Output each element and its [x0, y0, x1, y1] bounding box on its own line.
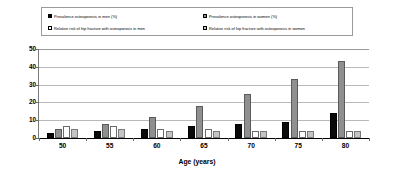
- bar: [47, 133, 54, 138]
- x-tick-label: 80: [342, 142, 349, 149]
- x-tick-mark: [133, 138, 134, 141]
- y-tick-label: 40: [29, 64, 36, 70]
- bar: [291, 79, 298, 138]
- bar: [354, 131, 361, 138]
- y-tick-label: 10: [29, 117, 36, 123]
- bar: [63, 126, 70, 138]
- bar: [213, 131, 220, 138]
- bar: [94, 131, 101, 138]
- legend-row-top: Prevalence osteoporosis in men (%) Preva…: [42, 10, 352, 22]
- x-tick-label: 50: [59, 142, 66, 149]
- x-tick-mark: [322, 138, 323, 141]
- x-tick-label: 75: [295, 142, 302, 149]
- x-axis-title: Age (years): [0, 158, 394, 166]
- y-tick-label: 20: [29, 99, 36, 105]
- y-tick-label: 50: [29, 46, 36, 52]
- legend-label-prevalence-men: Prevalence osteoporosis in men (%): [54, 14, 117, 19]
- x-tick-label: 55: [106, 142, 113, 149]
- x-tick-mark: [369, 138, 370, 141]
- x-tick-mark: [86, 138, 87, 141]
- bar: [330, 113, 337, 138]
- bar: [244, 94, 251, 139]
- bar: [188, 126, 195, 138]
- x-tick-label: 65: [200, 142, 207, 149]
- x-tick-label: 70: [247, 142, 254, 149]
- x-tick-mark: [39, 138, 40, 141]
- bar-group: [86, 49, 133, 138]
- bar-group: [322, 49, 369, 138]
- y-tick-label: 0: [32, 135, 36, 141]
- bar: [102, 124, 109, 138]
- bar: [166, 131, 173, 138]
- legend-item-relative-risk-women: Relative risk of hip fracture with osteo…: [201, 22, 352, 34]
- legend-swatch-relative-risk-women-icon: [203, 26, 207, 30]
- bar: [71, 129, 78, 138]
- y-tick-label: 30: [29, 81, 36, 87]
- bar: [299, 131, 306, 138]
- bar: [196, 106, 203, 138]
- bar: [346, 131, 353, 138]
- chart-legend: Prevalence osteoporosis in men (%) Preva…: [41, 7, 353, 36]
- bar: [149, 117, 156, 138]
- legend-row-bottom: Relative risk of hip fracture with osteo…: [42, 22, 352, 34]
- bar: [252, 131, 259, 138]
- bar: [110, 126, 117, 138]
- legend-swatch-relative-risk-men-icon: [48, 26, 52, 30]
- plot-area: 01020304050 50556065707580: [38, 49, 369, 139]
- legend-item-prevalence-women: Prevalence osteoporosis in women (%): [201, 10, 352, 22]
- bar: [260, 131, 267, 138]
- bar-group: [228, 49, 275, 138]
- x-tick-label: 60: [153, 142, 160, 149]
- bar-groups: [39, 49, 369, 138]
- x-tick-mark: [275, 138, 276, 141]
- bar: [282, 122, 289, 138]
- bar: [157, 129, 164, 138]
- legend-item-prevalence-men: Prevalence osteoporosis in men (%): [42, 10, 201, 22]
- legend-label-relative-risk-women: Relative risk of hip fracture with osteo…: [209, 26, 305, 31]
- legend-swatch-prevalence-women-icon: [203, 14, 207, 18]
- bar-group: [133, 49, 180, 138]
- legend-swatch-prevalence-men-icon: [48, 14, 52, 18]
- bar: [307, 131, 314, 138]
- bar: [55, 129, 62, 138]
- bar-group: [39, 49, 86, 138]
- bar-group: [275, 49, 322, 138]
- legend-label-relative-risk-men: Relative risk of hip fracture with osteo…: [54, 26, 145, 31]
- legend-item-relative-risk-men: Relative risk of hip fracture with osteo…: [42, 22, 201, 34]
- bar-group: [180, 49, 227, 138]
- bar: [141, 129, 148, 138]
- bar: [235, 124, 242, 138]
- bar: [205, 129, 212, 138]
- bar: [118, 129, 125, 138]
- x-tick-mark: [228, 138, 229, 141]
- bar: [338, 61, 345, 138]
- bar-chart-figure: Prevalence osteoporosis in men (%) Preva…: [0, 0, 394, 179]
- x-tick-mark: [180, 138, 181, 141]
- legend-label-prevalence-women: Prevalence osteoporosis in women (%): [209, 14, 277, 19]
